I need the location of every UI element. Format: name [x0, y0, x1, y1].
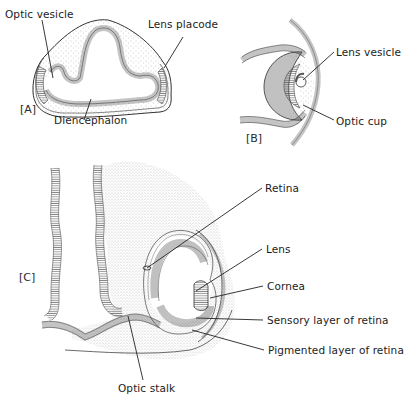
panel-c-drawing [42, 161, 264, 380]
eye-development-diagram: Optic vesicle Lens placode [A] Diencepha… [0, 0, 409, 401]
label-optic-stalk: Optic stalk [118, 382, 175, 394]
label-diencephalon: Diencephalon [54, 114, 127, 126]
label-lens: Lens [266, 243, 291, 255]
label-optic-cup: Optic cup [336, 115, 387, 127]
panel-tag-b: [B] [246, 133, 262, 145]
label-retina: Retina [265, 182, 299, 194]
diagram-artwork [0, 0, 409, 401]
panel-a-drawing [33, 20, 183, 120]
label-sensory-layer-of-retina: Sensory layer of retina [267, 314, 389, 326]
panel-b-drawing [240, 20, 334, 145]
label-cornea: Cornea [267, 280, 305, 292]
panel-tag-c: [C] [19, 272, 35, 284]
label-lens-vesicle: Lens vesicle [336, 46, 401, 58]
label-optic-vesicle: Optic vesicle [5, 8, 74, 20]
panel-tag-a: [A] [20, 104, 36, 116]
label-lens-placode: Lens placode [148, 18, 218, 30]
label-pigmented-layer-of-retina: Pigmented layer of retina [268, 344, 404, 356]
